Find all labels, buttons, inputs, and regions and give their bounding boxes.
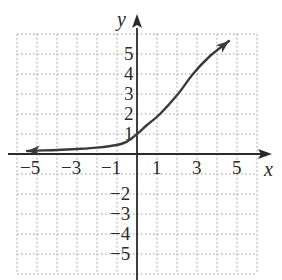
y-tick-label: 3	[124, 83, 134, 104]
graph: x y −5 −3 −1 1 3 5 5 4 3 2 1 −2 −3 −4 −5	[0, 0, 282, 280]
y-tick-label: −2	[110, 183, 130, 204]
x-tick-label: −3	[61, 157, 81, 178]
x-tick-label: −1	[101, 157, 121, 178]
y-tick-label: −3	[110, 203, 130, 224]
y-tick-label: −4	[110, 223, 131, 244]
y-tick-label: 5	[124, 43, 134, 64]
x-tick-label: −5	[20, 157, 40, 178]
y-axis-arrow-icon	[132, 14, 142, 28]
x-axis-label: x	[263, 158, 273, 180]
y-tick-label: 4	[124, 63, 134, 84]
x-tick-label: 1	[152, 157, 162, 178]
x-tick-label: 3	[192, 157, 202, 178]
y-tick-label: 2	[124, 103, 134, 124]
x-tick-label: 5	[232, 157, 242, 178]
y-axis-label: y	[115, 8, 126, 31]
y-tick-label: −5	[110, 243, 130, 264]
